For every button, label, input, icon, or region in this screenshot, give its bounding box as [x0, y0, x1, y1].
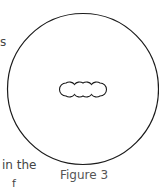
figure-caption: Figure 3: [60, 168, 108, 182]
bead-chain: [60, 82, 107, 97]
text-fragment-top: s: [0, 35, 6, 49]
outer-circle: [8, 14, 159, 165]
text-fragment-bottom: in the: [2, 158, 36, 172]
text-fragment-cut: f: [12, 177, 16, 188]
